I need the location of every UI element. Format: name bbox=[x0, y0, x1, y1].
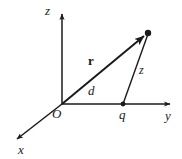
x-axis-label: x bbox=[18, 143, 24, 156]
diagram-canvas bbox=[0, 0, 182, 159]
origin-label: O bbox=[52, 107, 61, 120]
y-axis-label: y bbox=[165, 109, 171, 122]
vector-r-label: r bbox=[88, 54, 94, 67]
z-axis-label: z bbox=[45, 4, 50, 17]
height-z-segment bbox=[123, 34, 148, 104]
charge-point-dot bbox=[121, 102, 126, 107]
field-point-dot bbox=[145, 30, 151, 36]
height-z-label: z bbox=[139, 64, 144, 76]
vector-diagram-figure: z y x O q d r z bbox=[0, 0, 182, 159]
vector-r-arrow bbox=[62, 36, 144, 104]
distance-d-label: d bbox=[88, 84, 95, 97]
charge-label: q bbox=[119, 108, 126, 121]
